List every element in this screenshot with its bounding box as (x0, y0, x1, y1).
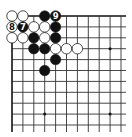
stone-disc (29, 43, 40, 54)
stone-disc (7, 33, 18, 44)
white-stone: 8 (7, 22, 18, 33)
black-stone (50, 54, 61, 65)
black-stone (29, 43, 40, 54)
white-stone (7, 11, 18, 22)
white-stone (39, 33, 50, 44)
go-board-svg: 987 (0, 0, 132, 137)
stone-disc (50, 54, 61, 65)
hoshi-point (43, 113, 46, 116)
stone-disc (39, 65, 50, 76)
black-stone (50, 22, 61, 33)
black-stone (39, 65, 50, 76)
stone-disc (39, 33, 50, 44)
white-stone (18, 11, 29, 22)
stone-disc (50, 33, 61, 44)
white-stone (50, 43, 61, 54)
white-stone (18, 33, 29, 44)
stone-disc (29, 33, 40, 44)
black-stone (50, 33, 61, 44)
stones: 987 (7, 11, 83, 76)
stone-disc (7, 11, 18, 22)
black-stone (39, 43, 50, 54)
stone-disc (39, 22, 50, 33)
stone-disc (39, 11, 50, 22)
white-stone (29, 22, 40, 33)
white-stone (61, 43, 72, 54)
stone-disc (50, 22, 61, 33)
stone-disc (29, 22, 40, 33)
stone-disc (72, 43, 83, 54)
move-number-label: 8 (9, 22, 15, 32)
black-stone (39, 11, 50, 22)
stone-disc (18, 33, 29, 44)
move-number-label: 9 (53, 11, 59, 21)
white-stone (72, 43, 83, 54)
stone-disc (61, 43, 72, 54)
stone-disc (50, 43, 61, 54)
black-stone: 9 (50, 11, 61, 22)
hoshi-point (109, 113, 112, 116)
move-number-label: 7 (20, 22, 26, 32)
stone-disc (18, 11, 29, 22)
black-stone: 7 (18, 22, 29, 33)
go-board-diagram: 987 (0, 0, 132, 137)
stone-disc (39, 43, 50, 54)
white-stone (39, 22, 50, 33)
white-stone (7, 33, 18, 44)
black-stone (29, 33, 40, 44)
hoshi-point (109, 47, 112, 50)
